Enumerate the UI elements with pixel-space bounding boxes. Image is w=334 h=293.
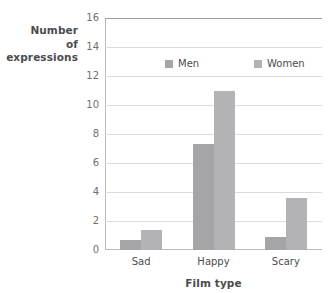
legend-swatch-women <box>254 60 262 68</box>
bar-chart: Number of expressions 0246810121416 Men … <box>0 0 334 293</box>
chart-legend: Men Women <box>165 58 325 72</box>
y-axis-tick-label: 0 <box>77 244 99 255</box>
plot-area: Men Women <box>105 18 322 250</box>
y-axis-tick-label: 12 <box>77 70 99 81</box>
x-axis-tick-label: Scary <box>251 256 321 267</box>
legend-swatch-men <box>165 60 173 68</box>
legend-item-men: Men <box>165 58 199 69</box>
y-axis-tick-label: 4 <box>77 186 99 197</box>
legend-item-women: Women <box>254 58 305 69</box>
bar-scary-men <box>265 237 286 250</box>
legend-label-women: Women <box>267 58 305 69</box>
y-axis-tick-label: 8 <box>77 128 99 139</box>
y-axis-title-line-3: expressions <box>4 51 78 65</box>
bars-layer <box>105 18 322 250</box>
x-axis-tick-label: Happy <box>179 256 249 267</box>
y-axis-title-line-1: Number <box>4 24 78 38</box>
x-axis-tick-label: Sad <box>106 256 176 267</box>
bar-sad-women <box>141 230 162 250</box>
y-axis-tick-label: 2 <box>77 215 99 226</box>
bar-sad-men <box>120 240 141 250</box>
bar-scary-women <box>286 198 307 250</box>
x-axis-title: Film type <box>105 277 322 289</box>
y-axis-tick-label: 10 <box>77 99 99 110</box>
bar-happy-women <box>214 91 235 251</box>
y-axis-title: Number of expressions <box>4 24 78 65</box>
y-axis-tick-label: 16 <box>77 12 99 23</box>
y-axis-tick-label: 14 <box>77 41 99 52</box>
legend-label-men: Men <box>178 58 199 69</box>
y-axis-title-line-2: of <box>4 38 78 52</box>
bar-happy-men <box>193 144 214 250</box>
y-axis-tick-label: 6 <box>77 157 99 168</box>
